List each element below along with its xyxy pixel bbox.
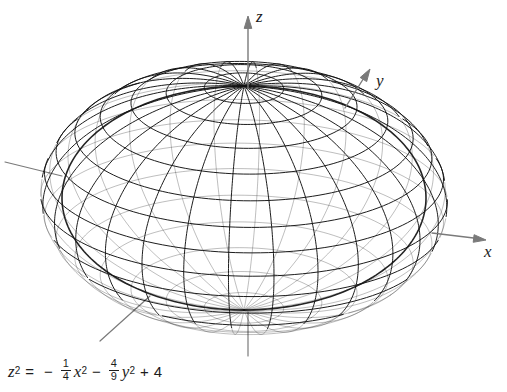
equation-term2-var: y	[122, 363, 130, 380]
equation-minus-second: −	[92, 364, 101, 379]
axes-front-group	[244, 16, 486, 242]
equation-caption: z2 = − 1 4 x2 − 4 9 y2 + 4	[8, 359, 162, 383]
ellipsoid-figure: z y x z2 = − 1 4 x2 − 4 9 y2 + 4	[0, 0, 507, 392]
x-axis-label: x	[484, 243, 492, 260]
equation-minus-first: −	[44, 364, 53, 379]
y-axis-label: y	[376, 72, 384, 89]
fraction-numerator: 4	[109, 358, 119, 370]
equation-term1-var: x	[74, 363, 82, 380]
equation-lhs-var: z	[8, 363, 15, 380]
equation-equals: =	[25, 364, 34, 379]
fraction-four-ninths: 4 9	[109, 358, 119, 382]
fraction-numerator: 1	[61, 358, 71, 370]
z-axis-label: z	[256, 8, 263, 25]
fraction-denominator: 4	[61, 370, 71, 383]
equation-lhs-exponent: 2	[15, 366, 21, 376]
equation-constant: 4	[154, 364, 162, 379]
fraction-denominator: 9	[109, 370, 119, 383]
surface-plot-canvas	[0, 0, 507, 392]
equation-plus: +	[140, 364, 149, 379]
fraction-one-quarter: 1 4	[61, 358, 71, 382]
equation-term1-exponent: 2	[81, 366, 87, 376]
equation-term2-exponent: 2	[129, 366, 135, 376]
